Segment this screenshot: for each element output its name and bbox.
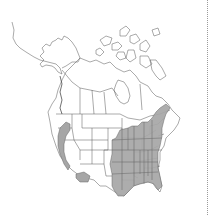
province-borders <box>62 70 142 114</box>
pacific-coast-range-area <box>58 122 70 170</box>
southern-california-range-area <box>76 172 90 182</box>
north-america-map <box>0 0 210 215</box>
coastal-islands <box>60 76 62 114</box>
arctic-islands <box>96 26 166 80</box>
alaska-outline <box>12 22 80 74</box>
hudson-bay-outline <box>114 80 130 104</box>
dotted-divider <box>207 0 208 215</box>
